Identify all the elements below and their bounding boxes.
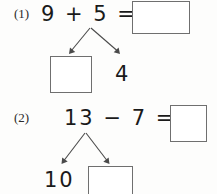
problem-2-part-box[interactable] bbox=[88, 166, 133, 194]
math-worksheet: (1) 9 + 5 = 4 (2) 13 − 7 = 10 bbox=[0, 0, 217, 194]
problem-1-part-box[interactable] bbox=[50, 56, 92, 93]
problem-2-part-value: 10 bbox=[44, 168, 75, 192]
problem-1-part-value: 4 bbox=[115, 62, 130, 86]
problem-1-decomposition-arrows bbox=[0, 0, 217, 97]
